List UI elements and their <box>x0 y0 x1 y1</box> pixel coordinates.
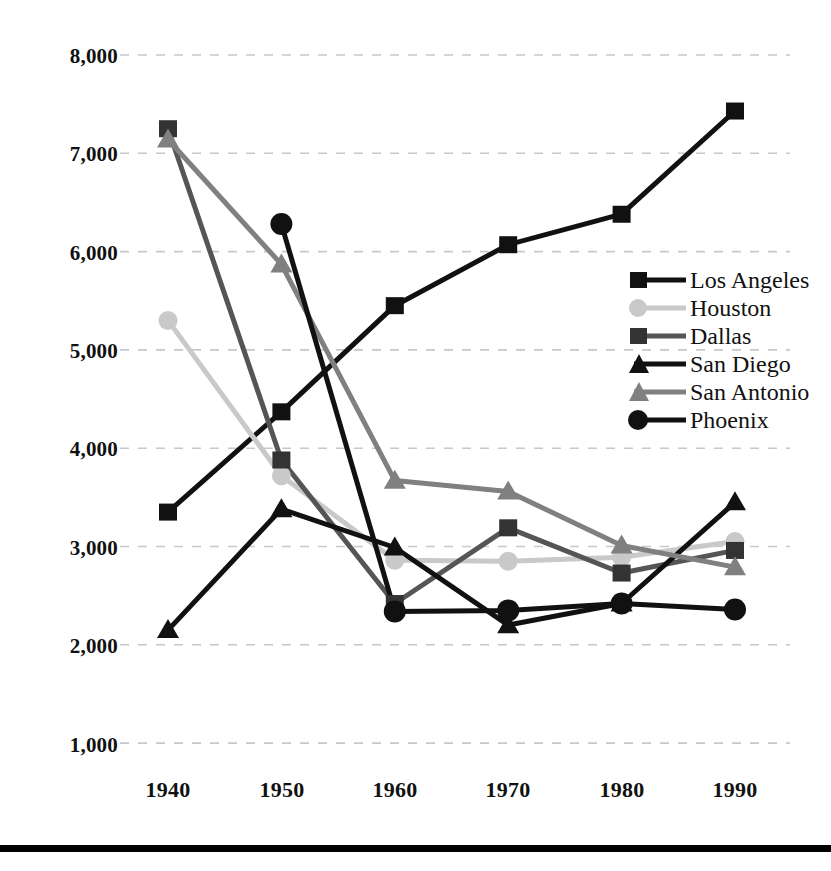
legend-item-los-angeles[interactable]: Los Angeles <box>628 266 828 294</box>
data-point-houston-1950 <box>272 466 291 485</box>
legend-label-los-angeles: Los Angeles <box>690 268 809 292</box>
data-point-houston-1940 <box>159 311 178 330</box>
data-point-los-angeles-1980 <box>613 206 631 223</box>
legend-item-houston[interactable]: Houston <box>628 294 828 322</box>
data-point-dallas-1970 <box>499 519 517 536</box>
legend-item-dallas[interactable]: Dallas <box>628 322 828 350</box>
data-point-san-diego-1990 <box>724 491 746 510</box>
legend-label-dallas: Dallas <box>690 324 751 348</box>
legend-key-los-angeles <box>628 268 690 292</box>
legend-label-phoenix: Phoenix <box>690 408 769 432</box>
data-point-phoenix-1970 <box>497 599 519 621</box>
data-point-los-angeles-1960 <box>386 297 404 314</box>
data-point-los-angeles-1950 <box>272 403 290 420</box>
legend-item-phoenix[interactable]: Phoenix <box>628 406 828 434</box>
data-point-dallas-1950 <box>272 451 290 468</box>
data-point-los-angeles-1970 <box>499 236 517 253</box>
bottom-divider-rule <box>0 845 831 852</box>
plot-area <box>0 0 831 871</box>
data-point-los-angeles-1940 <box>159 504 177 521</box>
line-chart-figure: 8,000 7,000 6,000 5,000 4,000 3,000 2,00… <box>0 0 831 871</box>
legend-key-houston <box>628 296 690 320</box>
data-point-dallas-1980 <box>613 565 631 582</box>
legend-label-san-diego: San Diego <box>690 352 791 376</box>
data-point-houston-1970 <box>499 552 518 571</box>
legend-item-san-diego[interactable]: San Diego <box>628 350 828 378</box>
legend-key-san-antonio <box>628 380 690 404</box>
legend-label-san-antonio: San Antonio <box>690 380 809 404</box>
data-point-los-angeles-1990 <box>726 103 744 120</box>
data-point-phoenix-1990 <box>724 598 746 620</box>
chart-legend: Los Angeles Houston Dallas San Diego San… <box>628 266 828 434</box>
data-point-phoenix-1960 <box>384 600 406 622</box>
legend-item-san-antonio[interactable]: San Antonio <box>628 378 828 406</box>
data-point-phoenix-1980 <box>611 593 633 615</box>
legend-key-phoenix <box>628 408 690 432</box>
legend-key-san-diego <box>628 352 690 376</box>
data-point-san-diego-1950 <box>270 498 292 517</box>
legend-label-houston: Houston <box>690 296 771 320</box>
legend-key-dallas <box>628 324 690 348</box>
data-point-phoenix-1950 <box>270 213 292 235</box>
